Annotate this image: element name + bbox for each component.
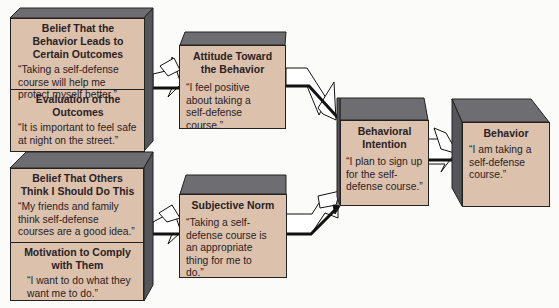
box-quote: “I plan to sign up for the self-defense …: [346, 156, 423, 194]
box-title: Subjective Norm: [186, 199, 280, 212]
box-quote: “I feel positive about taking a self-def…: [186, 82, 279, 132]
section-title: Belief That the Behavior Leads to Certai…: [18, 22, 138, 61]
section-quote: “It is important to feel safe at night o…: [18, 122, 138, 147]
belief-others-section: Belief That Others Think I Should Do Thi…: [11, 169, 143, 242]
section-quote: “My friends and family think self-defens…: [18, 201, 137, 239]
box-title: Attitude Toward the Behavior: [186, 50, 279, 76]
belief-outcomes-section: Belief That the Behavior Leads to Certai…: [11, 19, 144, 89]
arrow-norm-to-intention: [286, 191, 340, 234]
motivation-comply-section: Motivation to Comply with Them “I want t…: [11, 242, 143, 302]
section-title: Motivation to Comply with Them: [18, 246, 137, 272]
box-quote: “I am taking a self-defense course.”: [469, 144, 543, 182]
section-title: Evaluation of the Outcomes: [18, 93, 138, 119]
section-quote: “I want to do what they want me to do.”: [27, 275, 137, 300]
box-title: Behavioral Intention: [346, 125, 423, 151]
box-title: Behavior: [469, 127, 543, 140]
section-title: Belief That Others Think I Should Do Thi…: [18, 172, 137, 198]
box-quote: “Taking a self-defense course is an appr…: [186, 217, 280, 280]
